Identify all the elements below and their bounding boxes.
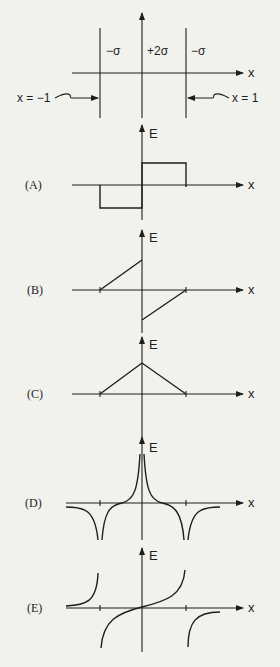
left-plane-label: x = −1 bbox=[17, 91, 51, 105]
option-label: (C) bbox=[27, 387, 43, 401]
x-axis-label: x bbox=[248, 177, 255, 192]
field-curve-triangle bbox=[100, 363, 186, 394]
field-curve-right bbox=[188, 612, 220, 647]
e-axis-label: E bbox=[149, 548, 158, 563]
e-axis-label: E bbox=[149, 440, 158, 455]
graph-a: (A) E x bbox=[25, 125, 255, 220]
field-curve-right-ramp bbox=[142, 290, 186, 320]
option-label: (B) bbox=[27, 283, 43, 297]
right-plane-pointer-arrow bbox=[188, 94, 229, 98]
setup-x-label: x bbox=[248, 65, 255, 80]
field-curve-center-right bbox=[144, 454, 184, 540]
field-curve-far-right bbox=[188, 507, 220, 540]
option-label: (D) bbox=[25, 496, 42, 510]
field-curve-center bbox=[101, 570, 185, 648]
x-axis-label: x bbox=[248, 495, 255, 510]
e-axis-label: E bbox=[149, 337, 158, 352]
left-plane-pointer-arrow bbox=[55, 94, 98, 98]
field-curve-left bbox=[66, 573, 98, 606]
field-curve-center-left bbox=[102, 454, 140, 540]
right-plane-label: x = 1 bbox=[232, 91, 259, 105]
graph-c: (C) E x bbox=[27, 337, 255, 437]
x-axis-label: x bbox=[248, 282, 255, 297]
field-curve-far-left bbox=[66, 507, 98, 540]
x-axis-label: x bbox=[248, 386, 255, 401]
e-axis-label: E bbox=[149, 230, 158, 245]
e-axis-label: E bbox=[149, 126, 158, 141]
graph-d: (D) E x bbox=[25, 437, 255, 540]
graph-b: (B) E x bbox=[27, 230, 255, 333]
option-label: (A) bbox=[25, 178, 42, 192]
electric-field-diagram: −σ +2σ −σ x x = −1 x = 1 (A) E x (B) E x… bbox=[0, 0, 280, 667]
field-curve-left-ramp bbox=[100, 260, 142, 290]
left-plane-charge: −σ bbox=[106, 44, 121, 58]
graph-e: (E) E x bbox=[27, 548, 255, 652]
x-axis-label: x bbox=[248, 600, 255, 615]
center-plane-charge: +2σ bbox=[147, 44, 169, 58]
charge-setup: −σ +2σ −σ x x = −1 x = 1 bbox=[17, 13, 259, 118]
option-label: (E) bbox=[27, 601, 42, 615]
right-plane-charge: −σ bbox=[191, 44, 206, 58]
